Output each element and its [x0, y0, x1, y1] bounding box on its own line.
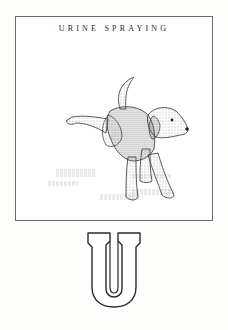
page-title: URINE SPRAYING [16, 24, 212, 33]
illustration-frame: URINE SPRAYING [15, 16, 213, 221]
letter-u-outline: U [86, 231, 142, 309]
alphabet-page: URINE SPRAYING [0, 0, 228, 330]
dog-illustration [36, 57, 196, 217]
